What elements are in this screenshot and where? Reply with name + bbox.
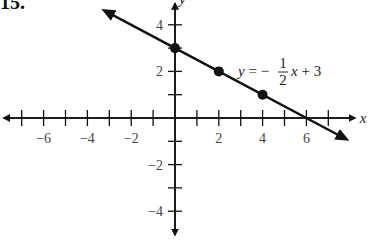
fraction-numerator: 1 (279, 55, 287, 71)
x-axis-label: x (359, 110, 367, 126)
y-tick-label: 2 (156, 64, 163, 79)
x-tick-label: −6 (36, 131, 51, 146)
x-tick-label: 2 (215, 131, 222, 146)
x-tick-label: −4 (80, 131, 95, 146)
y-tick-label: −2 (148, 158, 163, 173)
y-tick-label: 4 (156, 18, 163, 33)
equation-prefix: y = − (236, 63, 269, 79)
y-axis-label: y (177, 0, 186, 7)
y-tick-label: −4 (148, 204, 163, 219)
x-tick-label: 4 (259, 131, 266, 146)
x-tick-label: −2 (124, 131, 139, 146)
equation-suffix: x + 3 (290, 63, 321, 79)
equation-label: y = −12x + 3 (236, 55, 321, 88)
function-line-left (105, 11, 225, 75)
x-tick-label: 6 (303, 131, 310, 146)
data-point (170, 43, 180, 53)
data-point (258, 90, 268, 100)
coordinate-plane: xy 246−6−4−224−2−4 y = −12x + 3 (0, 0, 369, 248)
fraction-denominator: 2 (279, 72, 287, 88)
data-point (214, 66, 224, 76)
axes: xy (4, 0, 366, 235)
